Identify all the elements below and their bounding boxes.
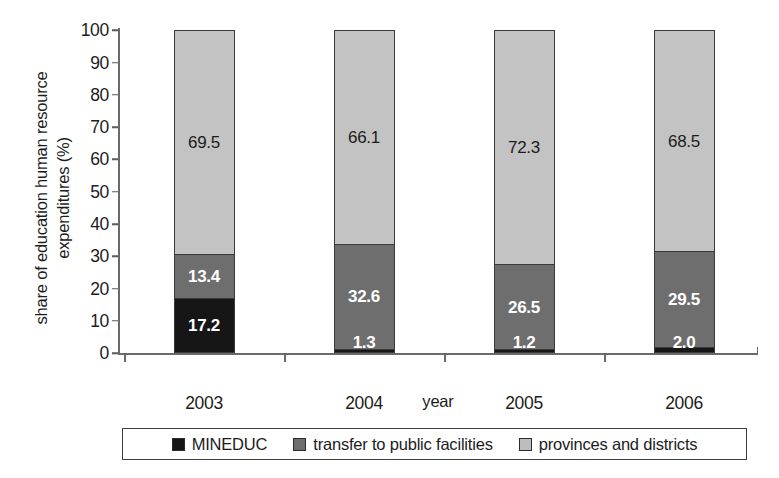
bar-segment-2004-provinces-and-districts[interactable]: 66.1: [334, 30, 395, 244]
plot-area: 0102030405060708090100 17.213.469.51.332…: [118, 30, 758, 355]
bar-segment-2006-provinces-and-districts[interactable]: 68.5: [654, 30, 715, 251]
bar-segment-value-label: 66.1: [348, 129, 380, 146]
x-tick-mark: [444, 355, 446, 362]
bar-segment-value-label: 69.5: [188, 134, 220, 151]
y-tick-label: 50: [90, 181, 109, 202]
bar-2003[interactable]: 17.213.469.5: [174, 30, 235, 353]
legend-swatch-icon: [293, 438, 306, 451]
legend-item-label: provinces and districts: [539, 435, 698, 454]
bar-2005[interactable]: 1.226.572.3: [494, 30, 555, 353]
stacked-bar-chart: share of education human resource expend…: [0, 0, 779, 478]
y-tick-label: 40: [90, 214, 109, 235]
x-axis-end-cap: [757, 347, 759, 355]
bar-segment-value-label: 17.2: [188, 317, 220, 334]
y-tick-mark: [112, 352, 118, 354]
y-tick-label: 80: [90, 84, 109, 105]
bar-2006[interactable]: 2.029.568.5: [654, 30, 715, 353]
bar-segment-2003-mineduc[interactable]: 17.2: [174, 298, 235, 354]
y-tick-label: 0: [100, 343, 109, 364]
y-tick-label: 90: [90, 52, 109, 73]
legend-swatch-icon: [172, 438, 185, 451]
bar-segment-2003-transfer-to-public-facilities[interactable]: 13.4: [174, 254, 235, 297]
bar-segment-2003-provinces-and-districts[interactable]: 69.5: [174, 30, 235, 254]
x-axis-title: year: [118, 392, 758, 411]
bar-2004[interactable]: 1.332.666.1: [334, 30, 395, 353]
x-tick-mark: [284, 355, 286, 362]
y-tick-mark: [112, 94, 118, 96]
bar-segment-2005-provinces-and-districts[interactable]: 72.3: [494, 30, 555, 264]
bar-segment-2006-mineduc[interactable]: 2.0: [654, 347, 715, 353]
bar-segment-2006-transfer-to-public-facilities[interactable]: 29.5: [654, 251, 715, 346]
y-tick-mark: [112, 126, 118, 128]
bar-segment-2004-transfer-to-public-facilities[interactable]: 32.6: [334, 244, 395, 349]
y-axis-title-line-1: share of education human resource: [30, 72, 52, 325]
y-axis-title: share of education human resource expend…: [24, 28, 80, 368]
bar-segment-2005-mineduc[interactable]: 1.2: [494, 349, 555, 353]
y-tick-mark: [112, 159, 118, 161]
y-tick-label: 70: [90, 117, 109, 138]
y-tick-label: 30: [90, 246, 109, 267]
chart-legend: MINEDUCtransfer to public facilitiesprov…: [122, 428, 747, 460]
legend-item-provinces[interactable]: provinces and districts: [519, 435, 698, 454]
x-axis-line: [118, 353, 758, 355]
legend-item-mineduc[interactable]: MINEDUC: [172, 435, 268, 454]
y-tick-label: 20: [90, 278, 109, 299]
bar-segment-value-label: 32.6: [348, 288, 380, 305]
legend-item-label: transfer to public facilities: [313, 435, 492, 454]
y-tick-mark: [112, 288, 118, 290]
y-axis-title-line-2: expenditures (%): [52, 137, 74, 259]
y-tick-mark: [112, 320, 118, 322]
y-tick-mark: [112, 223, 118, 225]
bar-segment-value-label: 26.5: [508, 299, 540, 316]
y-tick-mark: [112, 29, 118, 31]
y-tick-label: 10: [90, 310, 109, 331]
y-tick-label: 60: [90, 149, 109, 170]
bar-segment-value-label: 29.5: [668, 291, 700, 308]
bar-segment-2004-mineduc[interactable]: 1.3: [334, 349, 395, 353]
bar-segment-value-label: 68.5: [668, 133, 700, 150]
legend-item-transfer[interactable]: transfer to public facilities: [293, 435, 492, 454]
bar-segment-2005-transfer-to-public-facilities[interactable]: 26.5: [494, 264, 555, 350]
bar-segment-value-label: 13.4: [188, 268, 220, 285]
y-tick-label: 100: [81, 20, 109, 41]
x-tick-mark: [604, 355, 606, 362]
bar-segment-value-label: 72.3: [508, 139, 540, 156]
x-tick-mark: [124, 355, 126, 362]
y-tick-mark: [112, 256, 118, 258]
legend-swatch-icon: [519, 438, 532, 451]
y-tick-mark: [112, 191, 118, 193]
y-tick-mark: [112, 62, 118, 64]
legend-item-label: MINEDUC: [192, 435, 268, 454]
y-axis-line: [118, 28, 120, 355]
